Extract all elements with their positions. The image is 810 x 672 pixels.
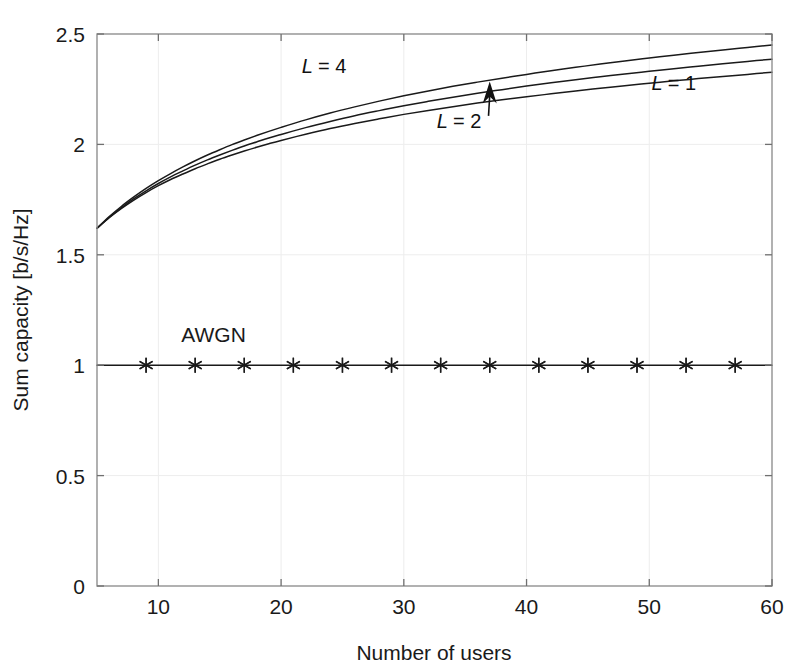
figure-container: 10203040506000.511.522.5 L = 4L = 2L = 1… bbox=[0, 0, 810, 672]
x-tick-label: 20 bbox=[269, 595, 292, 618]
y-tick-label: 0 bbox=[73, 575, 85, 598]
label-L1: L = 1 bbox=[651, 72, 696, 94]
y-tick-label: 0.5 bbox=[56, 465, 85, 488]
x-tick-label: 40 bbox=[515, 595, 538, 618]
y-tick-label: 2.5 bbox=[56, 23, 85, 46]
x-axis-title: Number of users bbox=[356, 641, 511, 664]
x-tick-label: 50 bbox=[638, 595, 661, 618]
y-tick-label: 1.5 bbox=[56, 244, 85, 267]
label-awgn: AWGN bbox=[181, 323, 246, 346]
y-axis-title: Sum capacity [b/s/Hz] bbox=[9, 208, 32, 411]
sum-capacity-chart: 10203040506000.511.522.5 L = 4L = 2L = 1… bbox=[0, 0, 810, 672]
label-L4: L = 4 bbox=[302, 55, 347, 77]
y-tick-label: 1 bbox=[73, 354, 85, 377]
chart-background bbox=[0, 0, 810, 672]
x-tick-label: 60 bbox=[760, 595, 783, 618]
label-L2: L = 2 bbox=[437, 110, 482, 132]
x-tick-label: 10 bbox=[147, 595, 170, 618]
y-tick-label: 2 bbox=[73, 133, 85, 156]
x-tick-label: 30 bbox=[392, 595, 415, 618]
